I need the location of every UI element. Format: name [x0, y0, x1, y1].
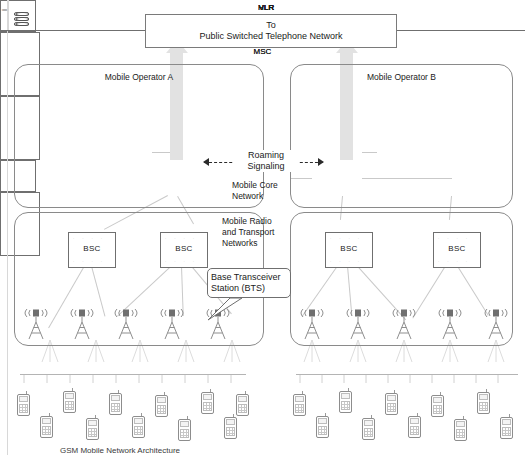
handset	[316, 413, 329, 438]
bsc-b1: · · · · BSC · · · ·	[325, 232, 373, 268]
handset	[408, 413, 421, 438]
handset-droplines	[0, 374, 525, 388]
handset	[63, 388, 76, 413]
bsc-a2: · · · · BSC · · · ·	[160, 232, 208, 268]
radio-line2: and Transport	[222, 227, 288, 238]
bts-tower	[482, 306, 510, 340]
bts-tower	[22, 306, 50, 340]
bts-tower	[112, 306, 140, 340]
handset	[477, 389, 490, 414]
handset	[500, 414, 513, 439]
mobile-core-network-label: Mobile Core Network	[232, 180, 292, 202]
mobile-radio-transport-label: Mobile Radio and Transport Networks	[222, 216, 288, 249]
handset	[40, 413, 53, 438]
operator-b-title: Mobile Operator B	[291, 72, 512, 82]
bsc-label: BSC	[161, 244, 207, 253]
coverage-bar-a	[20, 374, 246, 375]
bts-callout-pointer	[200, 296, 246, 322]
roaming-signaling-label: Roaming Signaling	[234, 150, 298, 172]
bsc-label: BSC	[434, 244, 480, 253]
pstn-box: To Public Switched Telephone Network	[145, 14, 397, 48]
database-icon	[16, 12, 29, 28]
diagram-canvas: To Public Switched Telephone Network Mob…	[0, 0, 525, 455]
handset	[132, 413, 145, 438]
roaming-line1: Roaming	[236, 150, 296, 161]
callout-line2: Station (BTS)	[211, 283, 290, 294]
handset	[109, 390, 122, 415]
handset	[155, 392, 168, 417]
core-line2: Network	[232, 191, 292, 202]
radio-line1: Mobile Radio	[222, 216, 288, 227]
handset	[454, 416, 467, 441]
pstn-line1: To	[266, 20, 276, 31]
handset	[17, 391, 30, 416]
bts-tower	[390, 306, 418, 340]
handset	[385, 390, 398, 415]
bts-tower	[298, 306, 326, 340]
handset	[431, 392, 444, 417]
roaming-arrow-right	[318, 158, 324, 166]
bts-tower	[158, 306, 186, 340]
operator-a-title: Mobile Operator A	[15, 72, 263, 82]
handset	[178, 416, 191, 441]
figure-caption: GSM Mobile Network Architecture	[60, 446, 180, 455]
zone-mobile-operator-b: Mobile Operator B	[290, 64, 513, 208]
bts-tower	[436, 306, 464, 340]
bts-tower	[68, 306, 96, 340]
roaming-arrow-left	[203, 158, 209, 166]
pstn-line2: Public Switched Telephone Network	[200, 31, 343, 42]
coverage-bar-b	[296, 374, 518, 375]
core-line1: Mobile Core	[232, 180, 292, 191]
bsc-b2: · · · · BSC · · · ·	[433, 232, 481, 268]
bsc-label: BSC	[326, 244, 372, 253]
roaming-line2: Signaling	[236, 161, 296, 172]
handset	[201, 389, 214, 414]
radio-line3: Networks	[222, 238, 288, 249]
handset	[339, 388, 352, 413]
bts-tower	[344, 306, 372, 340]
handset	[362, 415, 375, 440]
bsc-label: BSC	[69, 244, 115, 253]
vlr-label-b2: VLR	[8, 3, 525, 12]
zone-mobile-operator-a: Mobile Operator A	[14, 64, 264, 208]
handset	[293, 391, 306, 416]
bsc-a1: · · · · BSC · · · ·	[68, 232, 116, 268]
callout-line1: Base Transceiver	[211, 272, 290, 283]
handset	[224, 414, 237, 439]
bts-callout: Base Transceiver Station (BTS)	[207, 268, 291, 298]
handset	[86, 415, 99, 440]
handset	[236, 391, 249, 416]
